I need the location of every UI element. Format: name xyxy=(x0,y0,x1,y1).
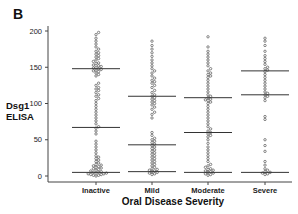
data-point xyxy=(207,165,209,167)
data-point xyxy=(151,44,153,46)
data-point xyxy=(207,56,209,58)
data-point xyxy=(100,65,102,67)
data-point xyxy=(207,155,209,157)
data-point xyxy=(151,59,153,61)
data-point xyxy=(151,156,153,158)
data-point xyxy=(151,101,153,103)
data-point xyxy=(97,65,99,67)
data-point xyxy=(207,76,209,78)
data-point xyxy=(95,43,97,45)
data-point xyxy=(97,168,99,170)
data-point xyxy=(207,120,209,122)
data-point xyxy=(151,91,153,93)
data-point xyxy=(207,85,209,87)
data-point xyxy=(264,82,266,84)
data-point xyxy=(97,73,99,75)
x-tick-label: Inactive xyxy=(82,186,110,195)
data-point xyxy=(92,168,94,170)
data-point xyxy=(204,99,206,101)
data-point xyxy=(95,91,97,93)
data-point xyxy=(266,66,268,68)
data-point xyxy=(204,170,206,172)
data-point xyxy=(97,52,99,54)
data-point xyxy=(264,160,266,162)
data-point xyxy=(153,81,155,83)
data-point xyxy=(264,164,266,166)
data-point xyxy=(209,75,211,77)
data-point xyxy=(264,168,266,170)
data-point xyxy=(207,168,209,170)
data-point xyxy=(207,82,209,84)
data-point xyxy=(97,31,99,33)
data-point xyxy=(97,57,99,59)
data-point xyxy=(207,142,209,144)
data-point xyxy=(95,62,97,64)
data-point xyxy=(207,139,209,141)
data-point xyxy=(151,131,153,133)
data-point xyxy=(90,170,92,172)
data-point xyxy=(204,173,206,175)
data-point xyxy=(264,85,266,87)
data-point xyxy=(95,146,97,148)
data-point xyxy=(153,157,155,159)
data-point xyxy=(153,160,155,162)
data-point xyxy=(209,72,211,74)
data-point xyxy=(153,106,155,108)
data-point xyxy=(264,40,266,42)
data-point xyxy=(100,167,102,169)
data-point xyxy=(97,156,99,158)
data-point xyxy=(207,65,209,67)
y-tick-label: 100 xyxy=(29,99,42,108)
data-point xyxy=(264,37,266,39)
data-point xyxy=(95,102,97,104)
data-point xyxy=(95,69,97,71)
data-point xyxy=(151,65,153,67)
data-point xyxy=(264,76,266,78)
data-point xyxy=(151,147,153,149)
data-point xyxy=(153,94,155,96)
data-point xyxy=(95,160,97,162)
data-point xyxy=(151,134,153,136)
y-tick-label: 150 xyxy=(29,63,42,72)
data-point xyxy=(207,62,209,64)
data-point xyxy=(95,175,97,177)
data-point xyxy=(92,174,94,176)
data-point xyxy=(207,149,209,151)
data-point xyxy=(264,99,266,101)
dot-plot-chart: 050100150200InactiveMildModerateSevere xyxy=(0,0,298,214)
data-point xyxy=(151,55,153,57)
data-point xyxy=(97,97,99,99)
data-point xyxy=(151,153,153,155)
data-point xyxy=(151,52,153,54)
data-point xyxy=(264,60,266,62)
data-point xyxy=(95,75,97,77)
data-point xyxy=(95,123,97,125)
data-point xyxy=(151,82,153,84)
data-point xyxy=(97,174,99,176)
data-point xyxy=(207,50,209,52)
data-point xyxy=(97,70,99,72)
data-point xyxy=(95,152,97,154)
data-point xyxy=(209,173,211,175)
data-point xyxy=(207,130,209,132)
data-point xyxy=(151,139,153,141)
data-point xyxy=(97,62,99,64)
data-point xyxy=(207,36,209,38)
data-point xyxy=(153,173,155,175)
x-tick-label: Severe xyxy=(253,186,278,195)
data-point xyxy=(97,165,99,167)
data-point xyxy=(153,111,155,113)
data-point xyxy=(207,117,209,119)
data-point xyxy=(153,152,155,154)
data-point xyxy=(264,144,266,146)
data-point xyxy=(95,130,97,132)
data-point xyxy=(95,166,97,168)
data-point xyxy=(87,173,89,175)
data-point xyxy=(92,70,94,72)
data-point xyxy=(95,53,97,55)
data-point xyxy=(95,120,97,122)
data-point xyxy=(212,169,214,171)
data-point xyxy=(207,160,209,162)
data-point xyxy=(264,139,266,141)
data-point xyxy=(95,37,97,39)
